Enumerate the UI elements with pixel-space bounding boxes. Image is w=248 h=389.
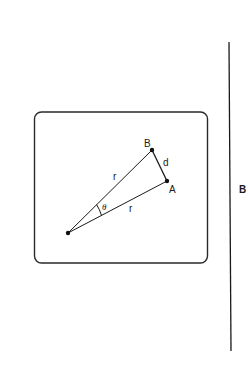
- geometry-diagram: B A d r r θ B: [0, 0, 248, 389]
- label-barrier-b: B: [239, 184, 246, 195]
- label-radius-lower: r: [129, 203, 133, 214]
- barrier-line: [229, 42, 231, 351]
- label-angle-theta: θ: [102, 202, 107, 212]
- label-distance-d: d: [163, 157, 169, 168]
- point-a: [165, 179, 169, 183]
- label-point-a: A: [169, 184, 176, 195]
- label-point-b: B: [144, 138, 151, 149]
- radius-line-to-a: [68, 181, 167, 233]
- radius-line-to-b: [68, 150, 152, 233]
- diagram-frame: [35, 112, 208, 263]
- angle-arc: [97, 205, 102, 216]
- label-radius-upper: r: [113, 171, 117, 182]
- origin-point: [66, 231, 70, 235]
